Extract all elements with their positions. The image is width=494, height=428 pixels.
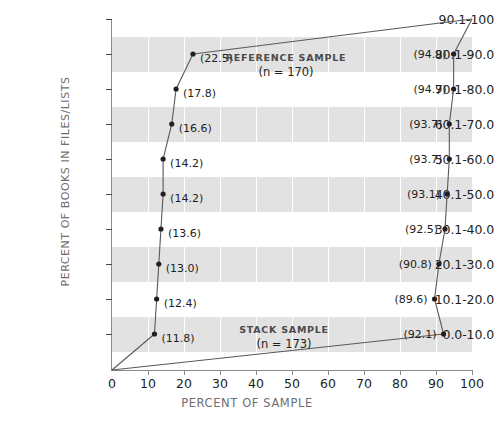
x-tick-label: 20 <box>176 376 192 391</box>
chart-container: 0.0-10.010.1-20.020.1-30.030.1-40.040.1-… <box>0 0 494 428</box>
y-axis-title: PERCENT OF BOOKS IN FILES/LISTS <box>59 62 72 302</box>
data-point-label: (13.0) <box>166 262 199 275</box>
data-point-label: (17.8) <box>183 87 216 100</box>
y-tick-mark <box>106 124 112 125</box>
data-point-label: (93.7) <box>409 153 442 166</box>
annotation-stack-sample: STACK SAMPLE (n = 173) <box>239 324 329 351</box>
x-tick-mark <box>256 370 257 375</box>
x-tick-mark <box>148 370 149 375</box>
x-tick-label: 10 <box>140 376 156 391</box>
x-tick-label: 100 <box>460 376 484 391</box>
y-tick-mark <box>106 299 112 300</box>
x-tick-label: 60 <box>320 376 336 391</box>
y-tick-mark <box>106 19 112 20</box>
y-axis-line <box>111 19 112 371</box>
x-tick-label: 30 <box>212 376 228 391</box>
y-tick-mark <box>106 89 112 90</box>
data-point-label: (94.9) <box>414 48 447 61</box>
data-point-label: (92.1) <box>403 328 436 341</box>
annotation-reference-title: REFERENCE SAMPLE <box>226 52 346 63</box>
x-tick-mark <box>436 370 437 375</box>
annotation-reference-sample: REFERENCE SAMPLE (n = 170) <box>226 52 346 79</box>
y-tick-mark <box>106 159 112 160</box>
y-tick-mark <box>106 229 112 230</box>
data-point-label: (12.4) <box>164 297 197 310</box>
x-tick-label: 50 <box>284 376 300 391</box>
x-tick-mark <box>364 370 365 375</box>
annotation-stack-n: (n = 173) <box>239 337 329 351</box>
x-axis-title: PERCENT OF SAMPLE <box>0 396 494 410</box>
data-point-label: (94.9) <box>414 83 447 96</box>
x-tick-mark <box>184 370 185 375</box>
data-point-label: (13.6) <box>168 227 201 240</box>
x-tick-mark <box>220 370 221 375</box>
vertical-gridline <box>148 19 149 370</box>
x-tick-label: 40 <box>248 376 264 391</box>
y-tick-label: 90.1-100 <box>396 12 494 27</box>
x-tick-mark <box>472 370 473 375</box>
data-point-label: (14.2) <box>170 192 203 205</box>
data-point-label: (90.8) <box>399 258 432 271</box>
data-point-label: (89.6) <box>394 293 427 306</box>
x-tick-label: 90 <box>428 376 444 391</box>
data-point-label: (93.1) <box>407 188 440 201</box>
y-tick-mark <box>106 54 112 55</box>
vertical-gridline <box>364 19 365 370</box>
data-point-label: (93.7) <box>409 118 442 131</box>
annotation-stack-title: STACK SAMPLE <box>239 324 329 335</box>
x-tick-label: 0 <box>108 376 116 391</box>
x-tick-label: 80 <box>392 376 408 391</box>
vertical-gridline <box>220 19 221 370</box>
x-tick-mark <box>292 370 293 375</box>
x-tick-label: 70 <box>356 376 372 391</box>
data-point-label: (14.2) <box>170 157 203 170</box>
y-tick-mark <box>106 264 112 265</box>
y-tick-mark <box>106 334 112 335</box>
annotation-reference-n: (n = 170) <box>226 65 346 79</box>
x-tick-mark <box>400 370 401 375</box>
x-tick-mark <box>328 370 329 375</box>
data-point-label: (16.6) <box>179 122 212 135</box>
data-point-label: (11.8) <box>161 332 194 345</box>
y-tick-mark <box>106 194 112 195</box>
data-point-label: (92.5) <box>405 223 438 236</box>
